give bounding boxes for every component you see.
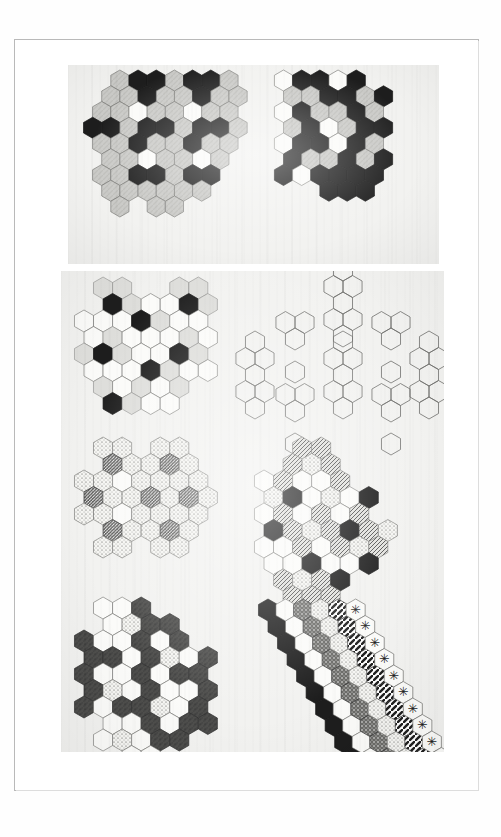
hex-cluster-flower7 [410,331,444,419]
hex-outline [285,400,304,422]
hex-outline [343,348,362,370]
asterisk-glyph: ✳ [350,602,361,617]
hex-outline [419,364,438,386]
asterisk-glyph: ✳ [369,635,380,650]
hex-outline [419,331,438,353]
hex-outline [295,312,314,334]
hex-outline [324,348,343,370]
panel-stippled-field-dark-nodes [74,437,217,558]
hex-outline [429,348,444,370]
upper-scan-block [68,65,439,264]
hex-outline [372,312,391,334]
panel-dark-honeycomb-rings [74,597,217,752]
hex-outline [333,271,352,281]
hex-outline [245,397,264,419]
hex-outline [245,364,264,386]
plate-frame: ✳✳✳✳✳✳✳✳✳✳ [14,39,479,791]
panel-diagonal-banded-strip: ✳✳✳✳✳✳✳✳✳✳ [258,599,444,752]
hex-outline [381,361,400,383]
lower-scan-block: ✳✳✳✳✳✳✳✳✳✳ [61,271,444,752]
panel-mixed-texture-lattice [254,437,397,608]
hex-outline [333,364,352,386]
asterisk-glyph: ✳ [360,618,371,633]
hex-outline [343,276,362,298]
hex-outline [255,348,274,370]
hex-outline [236,348,255,370]
hex-outline [276,384,295,406]
panel-interlocking-dark-chain [84,70,248,217]
hex-outline [333,331,352,353]
panel-sparse-black-nodes [74,277,217,415]
hex-cluster-cluster4 [276,312,314,384]
hex-outline [276,312,295,334]
panel-dense-dark-lattice [274,70,392,201]
hex-outline [285,361,304,383]
asterisk-glyph: ✳ [388,668,399,683]
hex-outline [285,328,304,350]
asterisk-glyph: ✳ [379,651,390,666]
lower-block-canvas: ✳✳✳✳✳✳✳✳✳✳ [61,271,444,752]
asterisk-glyph: ✳ [417,717,428,732]
hex-outline [324,276,343,298]
hex-outline [381,328,400,350]
hex-outline [333,325,352,347]
hex-outline [372,384,391,406]
hex-outline [343,309,362,331]
panel-outlined-rosette-clusters [236,271,444,455]
hex-cluster-cluster4 [372,312,410,384]
hex-cluster-flower7 [324,271,362,347]
hex-outline [419,397,438,419]
hex-outline [381,400,400,422]
hex-outline [381,433,400,455]
asterisk-glyph: ✳ [408,701,419,716]
scanned-plate-page: ✳✳✳✳✳✳✳✳✳✳ [0,0,501,837]
hex-outline [333,292,352,314]
hex-outline [255,381,274,403]
hex-outline [343,381,362,403]
hex-outline [324,309,343,331]
hex-outline [410,348,429,370]
hex-outline [236,381,255,403]
hex-outline [391,312,410,334]
asterisk-glyph: ✳ [398,684,409,699]
asterisk-glyph: ✳ [427,734,438,749]
hex-cluster-cluster4 [372,384,410,456]
hex-outline [295,384,314,406]
hex-outline [391,384,410,406]
hex-outline [324,381,343,403]
hex-outline [410,381,429,403]
hex-cluster-flower7 [236,331,274,419]
upper-block-canvas [68,65,439,264]
hex-outline [429,381,444,403]
hex-outline [245,331,264,353]
hex-outline [333,397,352,419]
asterisk-glyph: ✳ [436,750,444,752]
hex-cluster-flower7 [324,331,362,419]
